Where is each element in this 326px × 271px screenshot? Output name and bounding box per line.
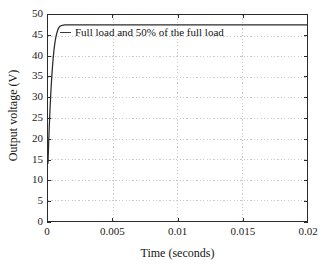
y-tickmark [47, 118, 51, 119]
y-axis-tick-label: 20 [32, 133, 43, 144]
y-axis-tick-label: 35 [32, 70, 43, 81]
x-axis-tick-label: 0.01 [168, 226, 187, 237]
legend-entry-label: Full load and 50% of the full load [75, 26, 224, 38]
x-tickmark [47, 14, 48, 18]
x-axis-tick-label: 0.005 [100, 226, 125, 237]
y-tickmark [47, 97, 51, 98]
y-tickmark [47, 76, 51, 77]
x-tickmark [178, 14, 179, 18]
x-tickmark [243, 218, 244, 222]
x-axis-tick-label: 0.02 [298, 226, 317, 237]
y-axis-tick-label: 30 [32, 91, 43, 102]
y-axis-tick-label: 50 [32, 8, 43, 19]
x-tickmark [307, 14, 308, 18]
x-tickmark [178, 218, 179, 222]
data-curve-layer [48, 15, 307, 221]
y-axis-tick-label: 40 [32, 50, 43, 61]
y-axis-tick-label: 15 [32, 154, 43, 165]
x-tickmark [112, 14, 113, 18]
y-axis-title: Output voltage (V) [6, 41, 21, 191]
y-tickmark [47, 35, 51, 36]
y-tickmark [47, 160, 51, 161]
y-tickmark [304, 201, 308, 202]
y-tickmark [47, 201, 51, 202]
legend: Full load and 50% of the full load [60, 26, 224, 38]
y-tickmark [304, 222, 308, 223]
line-dash-icon [60, 32, 71, 33]
x-tickmark [243, 14, 244, 18]
y-axis-tick-label: 10 [32, 174, 43, 185]
y-tickmark [304, 139, 308, 140]
x-axis-title: Time (seconds) [47, 246, 308, 261]
y-tickmark [47, 222, 51, 223]
chart-figure: 05101520253035404550 00.0050.010.0150.02… [0, 0, 326, 271]
x-axis-tick-label: 0 [44, 226, 50, 237]
y-tickmark [47, 180, 51, 181]
x-tickmark [47, 218, 48, 222]
y-tickmark [304, 97, 308, 98]
y-tickmark [304, 160, 308, 161]
plot-area [47, 14, 308, 222]
y-axis-tick-label: 25 [32, 112, 43, 123]
y-tickmark [304, 56, 308, 57]
y-tickmark [304, 118, 308, 119]
x-axis-tick-labels: 00.0050.010.0150.02 [0, 226, 326, 242]
y-tickmark [304, 35, 308, 36]
x-tickmark [112, 218, 113, 222]
x-axis-tick-label: 0.015 [230, 226, 255, 237]
x-tickmark [307, 218, 308, 222]
y-tickmark [47, 139, 51, 140]
y-axis-tick-label: 5 [38, 195, 44, 206]
y-tickmark [47, 56, 51, 57]
y-axis-tick-label: 45 [32, 29, 43, 40]
y-tickmark [304, 180, 308, 181]
y-tickmark [304, 76, 308, 77]
